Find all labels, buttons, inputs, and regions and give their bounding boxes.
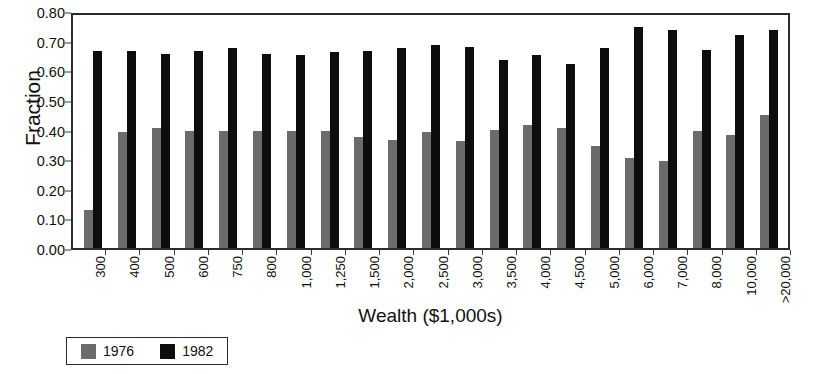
- x-axis-tick-mark: [687, 250, 688, 255]
- legend-swatch-1976: [81, 344, 96, 359]
- x-axis-tick-mark: [482, 250, 483, 255]
- legend-swatch-1982: [160, 344, 175, 359]
- x-axis-tick-label: 1,000: [299, 256, 314, 289]
- x-axis-tick-mark: [516, 250, 517, 255]
- bar-group: [685, 15, 719, 248]
- bar-1982-800: [262, 54, 271, 248]
- x-axis-tick-label: 3,000: [470, 256, 485, 289]
- bar-1976-6,000: [625, 158, 634, 248]
- bar-1982-10,000: [735, 35, 744, 248]
- bar-1982-3,000: [465, 47, 474, 248]
- bar-1976-1,500: [354, 137, 363, 248]
- bar-group: [617, 15, 651, 248]
- x-axis-tick-mark: [585, 250, 586, 255]
- bar-1976-3,500: [490, 130, 499, 249]
- x-axis-tick-mark: [790, 250, 791, 255]
- bar-1982-500: [161, 54, 170, 248]
- bar-group: [549, 15, 583, 248]
- x-axis-tick-mark: [139, 250, 140, 255]
- bar-1976-1,250: [321, 131, 330, 248]
- x-axis-tick-label: 7,000: [675, 256, 690, 289]
- x-axis-tick-labels: 3004005006007508001,0001,2501,5002,0002,…: [71, 256, 790, 306]
- bar-1982-5,000: [600, 48, 609, 248]
- x-axis-title: Wealth ($1,000s): [71, 305, 790, 327]
- x-axis-tick-mark: [653, 250, 654, 255]
- x-axis-tick-label: >20,000: [778, 256, 793, 303]
- bar-group: [76, 15, 110, 248]
- y-axis-tick-label: 0.10: [37, 212, 65, 228]
- x-axis-tick-mark: [448, 250, 449, 255]
- x-axis-tick-mark: [413, 250, 414, 255]
- bar-1976-4,000: [523, 125, 532, 248]
- bar-1982-300: [93, 51, 102, 248]
- bar-1976-10,000: [726, 135, 735, 248]
- x-axis-tick-mark: [619, 250, 620, 255]
- bar-1982-400: [127, 51, 136, 248]
- x-axis-tick-mark: [276, 250, 277, 255]
- legend-label: 1976: [103, 343, 134, 359]
- x-axis-tick-mark: [345, 250, 346, 255]
- x-axis-tick-mark: [242, 250, 243, 255]
- x-axis-tick-label: 5,000: [607, 256, 622, 289]
- bar-group: [752, 15, 786, 248]
- x-axis-tick-label: 400: [127, 256, 142, 278]
- bar-series-container: [73, 15, 788, 248]
- bar-1976-750: [219, 131, 228, 248]
- x-axis-tick-label: 800: [264, 256, 279, 278]
- bar-group: [448, 15, 482, 248]
- y-axis-tick-labels: 0.000.100.200.300.400.500.600.700.80: [20, 0, 65, 260]
- bar-1982-1,000: [296, 55, 305, 248]
- x-axis-tick-label: 4,500: [572, 256, 587, 289]
- bar-group: [279, 15, 313, 248]
- bar-1982-3,500: [499, 60, 508, 248]
- bar-group: [718, 15, 752, 248]
- bar-group: [583, 15, 617, 248]
- bar-1976-800: [253, 131, 262, 248]
- x-axis-tick-label: 2,500: [436, 256, 451, 289]
- plot-area: [71, 13, 790, 250]
- x-axis-tick-label: 3,500: [504, 256, 519, 289]
- y-axis-tick-label: 0.00: [37, 242, 65, 258]
- x-axis-tick-mark: [756, 250, 757, 255]
- bar-group: [177, 15, 211, 248]
- x-axis-tick-label: 300: [93, 256, 108, 278]
- x-axis-tick-label: 750: [230, 256, 245, 278]
- x-axis-tick-mark: [550, 250, 551, 255]
- y-axis-tick-label: 0.60: [37, 64, 65, 80]
- bar-1976-2,000: [388, 140, 397, 248]
- bar-1982-1,500: [363, 51, 372, 248]
- bar-group: [347, 15, 381, 248]
- bar-group: [144, 15, 178, 248]
- bar-group: [380, 15, 414, 248]
- bar-1976-3,000: [456, 141, 465, 248]
- bar-1976-5,000: [591, 146, 600, 248]
- y-axis-tick-label: 0.40: [37, 124, 65, 140]
- bar-1982-8,000: [702, 50, 711, 248]
- bar-1976-500: [152, 128, 161, 248]
- bar-1982-4,500: [566, 64, 575, 248]
- bar-1982-2,500: [431, 45, 440, 248]
- x-axis-tick-label: 6,000: [641, 256, 656, 289]
- x-axis-tick-label: 8,000: [709, 256, 724, 289]
- legend-label: 1982: [182, 343, 213, 359]
- bar-1976->20,000: [760, 115, 769, 248]
- x-axis-tick-mark: [311, 250, 312, 255]
- bar-1976-2,500: [422, 132, 431, 248]
- bar-1976-600: [185, 131, 194, 248]
- x-axis-tick-mark: [379, 250, 380, 255]
- bar-group: [651, 15, 685, 248]
- x-axis-tick-label: 1,500: [367, 256, 382, 289]
- bar-group: [110, 15, 144, 248]
- chart-figure: Fraction 0.000.100.200.300.400.500.600.7…: [0, 0, 814, 374]
- y-axis-tick-label: 0.50: [37, 94, 65, 110]
- bar-1982->20,000: [769, 30, 778, 248]
- bar-group: [482, 15, 516, 248]
- x-axis-tick-label: 10,000: [744, 256, 759, 296]
- legend-item: 1976: [81, 343, 134, 359]
- bar-1982-600: [194, 51, 203, 248]
- bar-1976-400: [118, 132, 127, 248]
- legend-item: 1982: [160, 343, 213, 359]
- x-axis-tick-mark: [174, 250, 175, 255]
- y-axis-tick-label: 0.70: [37, 35, 65, 51]
- x-axis-tick-label: 500: [162, 256, 177, 278]
